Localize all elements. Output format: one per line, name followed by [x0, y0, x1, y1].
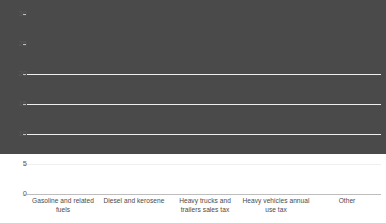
- y-tick-mark-30: [23, 14, 26, 15]
- y-tick-mark-5: [23, 164, 26, 165]
- x-axis-line: [27, 194, 381, 195]
- gridline-5: [27, 164, 381, 165]
- gridline-15: [27, 104, 381, 105]
- bar-chart: 30 25 20 15 10 5 0 Gasoline and related …: [0, 0, 386, 154]
- y-axis: 30 25 20 15 10 5 0: [0, 0, 27, 223]
- bar-series: [27, 14, 381, 71]
- y-tick-mark-15: [23, 104, 26, 105]
- y-tick-mark-25: [23, 44, 26, 45]
- bar-other: [319, 69, 375, 71]
- gridline-10: [27, 134, 381, 135]
- bar-heavy-vehicles-annual-use-tax: [248, 66, 304, 71]
- x-tick-label-gasoline-and-related-fuels: Gasoline and related fuels: [27, 197, 99, 214]
- x-axis: Gasoline and related fuels Diesel and ke…: [27, 197, 381, 223]
- y-tick-mark-20: [23, 74, 26, 75]
- x-tick-label-heavy-vehicles-annual-use-tax: Heavy vehicles annual use tax: [240, 197, 312, 214]
- gridline-20: [27, 74, 381, 75]
- plot-area: [27, 14, 381, 194]
- bar-diesel-and-kerosene: [106, 66, 162, 71]
- bar-gasoline-and-related-fuels: [35, 47, 91, 71]
- x-tick-label-other: Other: [311, 197, 383, 206]
- y-tick-mark-0: [23, 194, 26, 195]
- x-tick-label-heavy-trucks-and-trailers-sales-tax: Heavy trucks and trailers sales tax: [169, 197, 241, 214]
- x-tick-label-diesel-and-kerosene: Diesel and kerosene: [98, 197, 170, 206]
- bar-heavy-trucks-and-trailers-sales-tax: [177, 69, 233, 71]
- y-tick-mark-10: [23, 134, 26, 135]
